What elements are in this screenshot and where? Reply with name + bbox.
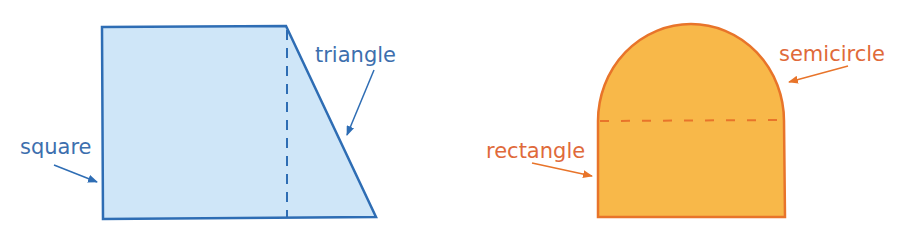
rectangle-label: rectangle: [486, 139, 585, 163]
composite-shapes-diagram: square triangle rectangle semicircle: [0, 0, 902, 230]
semicircle-label: semicircle: [779, 42, 885, 66]
square-label: square: [20, 135, 92, 159]
square-arrow: [54, 165, 97, 182]
triangle-label: triangle: [315, 43, 396, 67]
rectangle-arrow: [532, 163, 592, 176]
square-triangle-figure: square triangle: [20, 26, 396, 219]
semicircle-arrow: [789, 66, 848, 82]
rectangle-semicircle-figure: rectangle semicircle: [486, 24, 885, 217]
triangle-arrow: [347, 70, 374, 135]
rectangle-semicircle-divider: [600, 120, 782, 121]
